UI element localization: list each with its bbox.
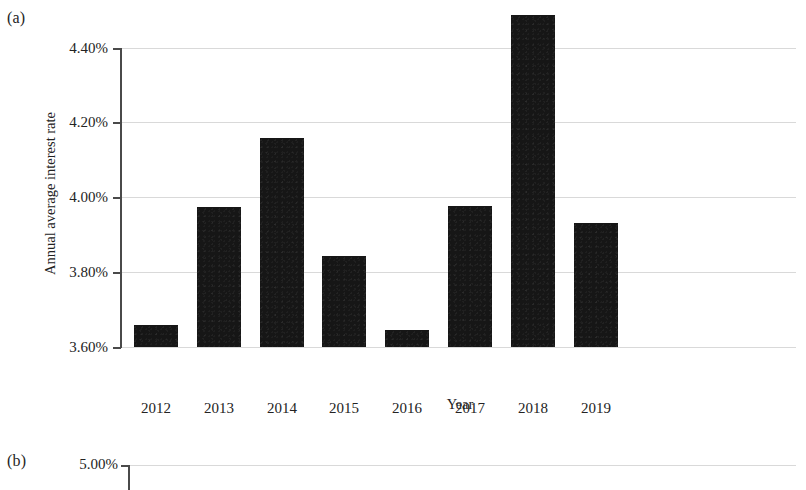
gridline [120, 197, 796, 198]
y-tick-label: 3.60% [30, 339, 108, 356]
plot-area: 2012 2013 2014 2015 2016 2017 2018 2019 [120, 48, 796, 347]
bar-2015 [322, 256, 366, 347]
x-tick-label-2017: 2017 [455, 400, 485, 417]
y-axis-tick [113, 122, 121, 124]
y-tick-label: 4.00% [30, 189, 108, 206]
y-axis-tick-labels: 4.40% 4.20% 4.00% 3.80% 3.60% [26, 48, 108, 348]
y-tick-label: 4.40% [30, 40, 108, 57]
y-tick-label: 3.80% [30, 264, 108, 281]
panel-a: (a) Annual average interest rate Year 4.… [0, 0, 806, 420]
panel-b-y-axis-line [128, 465, 130, 490]
bar-2016 [385, 330, 429, 347]
panel-b-y-axis-tick [121, 465, 129, 467]
y-axis-tick [113, 48, 121, 50]
x-tick-label-2016: 2016 [392, 400, 422, 417]
y-axis-tick [113, 197, 121, 199]
panel-a-label: (a) [7, 9, 25, 27]
x-tick-label-2018: 2018 [518, 400, 548, 417]
gridline [120, 347, 796, 348]
bar-2017 [448, 206, 492, 347]
panel-b-label: (b) [7, 452, 26, 470]
panel-b-gridline [128, 465, 796, 466]
x-tick-label-2012: 2012 [141, 400, 171, 417]
gridline [120, 122, 796, 123]
y-axis-tick [113, 272, 121, 274]
x-tick-label-2014: 2014 [267, 400, 297, 417]
x-tick-label-2015: 2015 [329, 400, 359, 417]
y-tick-label: 4.20% [30, 114, 108, 131]
bar-2014 [260, 138, 304, 347]
x-tick-label-2013: 2013 [204, 400, 234, 417]
bar-2019 [574, 223, 618, 347]
bar-2013 [197, 207, 241, 347]
y-axis-tick [113, 347, 121, 349]
bar-2018 [511, 15, 555, 347]
panel-b-y-tick-label: 5.00% [40, 456, 118, 473]
x-tick-label-2019: 2019 [581, 400, 611, 417]
bar-2012 [134, 325, 178, 347]
gridline [120, 48, 796, 49]
figure-container: (a) Annual average interest rate Year 4.… [0, 0, 806, 490]
panel-b: (b) 5.00% [0, 420, 806, 490]
